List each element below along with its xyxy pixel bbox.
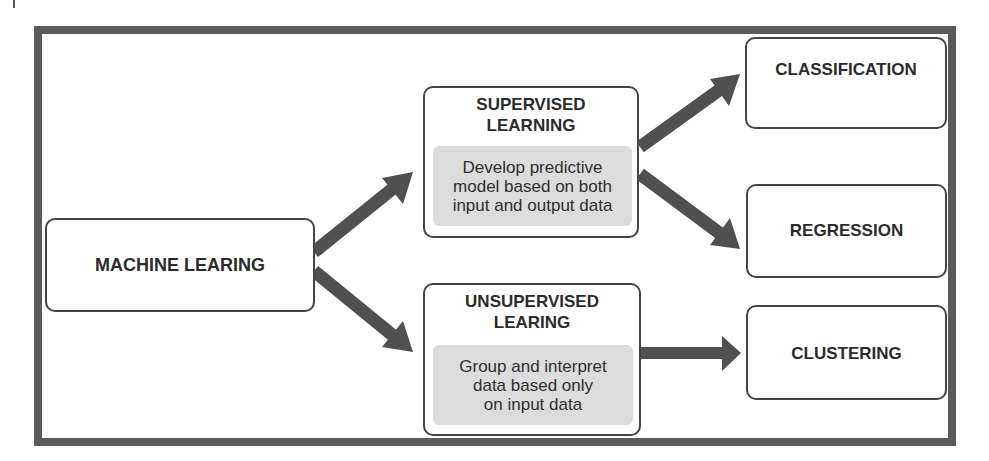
- regression-label: REGRESSION: [790, 220, 903, 241]
- unsupervised-desc-line2: data based only: [473, 376, 593, 395]
- unsupervised-title-line2: LEARING: [494, 312, 571, 333]
- supervised-desc-line3: input and output data: [453, 196, 613, 215]
- classification-label: CLASSIFICATION: [775, 59, 916, 80]
- supervised-description: Develop predictive model based on both i…: [433, 146, 632, 226]
- machine-learning-box: MACHINE LEARING: [45, 218, 315, 312]
- unsupervised-desc-line1: Group and interpret: [459, 357, 606, 376]
- clustering-label: CLUSTERING: [791, 343, 902, 364]
- supervised-desc-line2: model based on both: [453, 177, 612, 196]
- supervised-desc-line1: Develop predictive: [463, 158, 603, 177]
- unsupervised-desc-line3: on input data: [484, 395, 582, 414]
- machine-learning-label: MACHINE LEARING: [95, 255, 265, 276]
- arrow-root-to-supervised: [314, 172, 413, 252]
- unsupervised-description: Group and interpret data based only on i…: [433, 345, 633, 425]
- unsupervised-title-line1: UNSUPERVISED: [465, 291, 599, 312]
- arrow-supervised-to-regression: [640, 174, 740, 249]
- supervised-title-line1: SUPERVISED: [476, 94, 585, 115]
- clustering-box: CLUSTERING: [746, 305, 947, 400]
- arrow-supervised-to-classification: [640, 74, 740, 147]
- regression-box: REGRESSION: [746, 184, 947, 278]
- arrow-unsupervised-to-clustering: [641, 336, 741, 371]
- arrow-root-to-unsupervised: [314, 271, 413, 352]
- classification-box: CLASSIFICATION: [745, 37, 947, 129]
- supervised-title-line2: LEARNING: [487, 115, 576, 136]
